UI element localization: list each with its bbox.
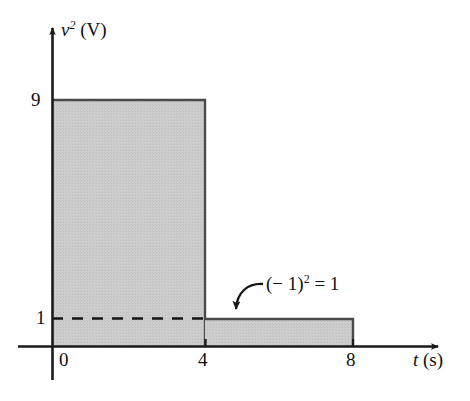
y-axis-tick-label-9: 9 xyxy=(31,90,41,109)
x-axis-unit: (s) xyxy=(423,349,443,370)
x-axis-tick-label-4: 4 xyxy=(198,350,208,369)
annotation-text-before: (− 1) xyxy=(266,273,304,294)
x-axis-tick-label-8: 8 xyxy=(346,350,356,369)
bar-segment-4-8 xyxy=(205,319,353,347)
y-axis-tick-label-1: 1 xyxy=(36,308,46,327)
annotation-arrow xyxy=(236,284,263,309)
annotation-text-after: = 1 xyxy=(310,273,340,294)
y-axis-title: v2 (V) xyxy=(61,20,107,39)
annotation-label: (− 1)2 = 1 xyxy=(266,274,339,293)
y-axis-unit: (V) xyxy=(80,19,106,40)
x-axis-tick-label-0: 0 xyxy=(59,350,69,369)
bar-segment-0-4 xyxy=(52,100,205,347)
x-axis-title: t (s) xyxy=(413,350,443,369)
chart-plot-area xyxy=(0,0,470,401)
chart-figure: 9 1 0 4 8 v2 (V) t (s) (− 1)2 = 1 xyxy=(0,0,470,401)
